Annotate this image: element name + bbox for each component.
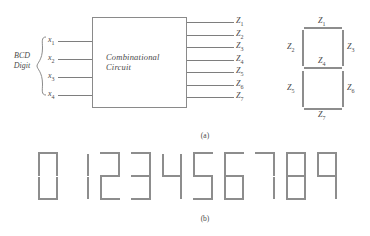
seven-segment-digit-0: [38, 152, 58, 200]
digit-2-segment-lower-right: [118, 177, 120, 199]
digit-5-segment-lower-right: [211, 177, 213, 199]
legend-label-lower-left: Z5: [287, 83, 294, 94]
figure-root: BCD Digit Combinational Circuit x1x2x3x4…: [0, 0, 370, 236]
digit-4-segment-lower-left: [162, 177, 164, 199]
input-wire-x2: [58, 59, 92, 60]
digit-7-segment-bottom: [255, 198, 275, 200]
output-label-Z4: Z4: [236, 54, 243, 65]
digit-0-segment-middle: [38, 175, 58, 177]
output-wire-Z2: [187, 35, 234, 36]
digit-6-segment-upper-left: [224, 154, 226, 176]
digit-9-segment-middle: [317, 175, 337, 177]
combinational-circuit-label-line2: Circuit: [106, 62, 186, 72]
digit-6-segment-bottom: [224, 198, 244, 200]
output-wire-Z4: [187, 60, 234, 61]
input-label-x3: x3: [48, 71, 55, 82]
digit-3-segment-middle: [131, 175, 151, 177]
output-wire-Z7: [187, 97, 234, 98]
legend-label-middle: Z4: [318, 56, 325, 67]
digit-0-segment-upper-right: [56, 154, 58, 176]
digit-7-segment-upper-left: [255, 154, 257, 176]
digit-3-segment-lower-right: [149, 177, 151, 199]
digit-8-segment-top: [286, 152, 306, 154]
digit-3-segment-upper-right: [149, 154, 151, 176]
digit-1-segment-upper-right: [87, 154, 89, 176]
legend-label-top: Z1: [318, 16, 325, 27]
digit-6-segment-top: [224, 152, 244, 154]
digit-2-segment-middle: [100, 175, 120, 177]
digit-2-segment-bottom: [100, 198, 120, 200]
input-group-label-line1: BCD: [6, 51, 38, 61]
digit-5-segment-top: [193, 152, 213, 154]
legend-segment-lower-right: [342, 71, 344, 107]
digit-4-segment-lower-right: [180, 177, 182, 199]
seven-segment-digit-8: [286, 152, 306, 200]
digit-4-segment-upper-left: [162, 154, 164, 176]
digit-6-segment-lower-left: [224, 177, 226, 199]
seven-segment-digit-2: [100, 152, 120, 200]
digit-4-segment-bottom: [162, 198, 182, 200]
digit-0-segment-upper-left: [38, 154, 40, 176]
caption-a: (a): [185, 131, 225, 140]
digit-6-segment-upper-right: [242, 154, 244, 176]
combinational-circuit-label: Combinational Circuit: [106, 52, 186, 72]
input-wire-x4: [58, 95, 92, 96]
output-label-Z6: Z6: [236, 79, 243, 90]
digit-5-segment-bottom: [193, 198, 213, 200]
digit-1-segment-middle: [69, 175, 89, 177]
input-label-x4: x4: [48, 89, 55, 100]
seven-segment-digit-9: [317, 152, 337, 200]
legend-label-upper-right: Z3: [347, 42, 354, 53]
digit-1-segment-lower-right: [87, 177, 89, 199]
seven-segment-digit-5: [193, 152, 213, 200]
combinational-circuit-label-line1: Combinational: [106, 52, 186, 62]
output-label-Z7: Z7: [236, 91, 243, 102]
digit-4-segment-middle: [162, 175, 182, 177]
caption-b: (b): [185, 214, 225, 223]
seven-segment-digit-6: [224, 152, 244, 200]
digit-9-segment-upper-left: [317, 154, 319, 176]
input-label-x1: x1: [48, 35, 55, 46]
digit-2-segment-top: [100, 152, 120, 154]
digit-8-segment-lower-right: [304, 177, 306, 199]
output-wire-Z1: [187, 22, 234, 23]
digit-0-segment-top: [38, 152, 58, 154]
input-wire-x1: [58, 41, 92, 42]
output-label-Z2: Z2: [236, 29, 243, 40]
digit-0-segment-lower-right: [56, 177, 58, 199]
digit-1-segment-bottom: [69, 198, 89, 200]
input-group-label-line2: Digit: [6, 61, 38, 71]
digit-8-segment-bottom: [286, 198, 306, 200]
digit-9-segment-lower-left: [317, 177, 319, 199]
digit-2-segment-lower-left: [100, 177, 102, 199]
digit-3-segment-lower-left: [131, 177, 133, 199]
digit-1-segment-lower-left: [69, 177, 71, 199]
digit-9-segment-upper-right: [335, 154, 337, 176]
digit-5-segment-middle: [193, 175, 213, 177]
digit-8-segment-upper-left: [286, 154, 288, 176]
digit-7-segment-lower-right: [273, 177, 275, 199]
legend-segment-top: [304, 27, 342, 29]
digit-4-segment-upper-right: [180, 154, 182, 176]
digit-5-segment-upper-left: [193, 154, 195, 176]
input-brace: [36, 36, 47, 96]
legend-label-lower-right: Z6: [347, 83, 354, 94]
seven-segment-digit-4: [162, 152, 182, 200]
digit-3-segment-upper-left: [131, 154, 133, 176]
digit-2-segment-upper-right: [118, 154, 120, 176]
legend-segment-upper-left: [302, 30, 304, 66]
digit-7-segment-lower-left: [255, 177, 257, 199]
digit-1-segment-upper-left: [69, 154, 71, 176]
legend-segment-lower-left: [302, 71, 304, 107]
output-wire-Z6: [187, 85, 234, 86]
digit-8-segment-middle: [286, 175, 306, 177]
digit-3-segment-top: [131, 152, 151, 154]
digit-5-segment-upper-right: [211, 154, 213, 176]
digit-6-segment-lower-right: [242, 177, 244, 199]
output-wire-Z3: [187, 47, 234, 48]
digit-9-segment-bottom: [317, 198, 337, 200]
digit-0-segment-lower-left: [38, 177, 40, 199]
digit-2-segment-upper-left: [100, 154, 102, 176]
legend-label-bottom: Z7: [318, 110, 325, 121]
digit-8-segment-lower-left: [286, 177, 288, 199]
